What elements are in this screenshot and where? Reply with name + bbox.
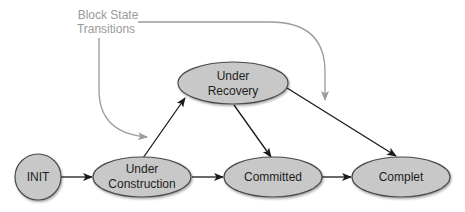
node-complet: Complet xyxy=(352,157,450,197)
node-committed: Committed xyxy=(224,157,322,197)
node-under-construction-label-2: Construction xyxy=(108,177,175,191)
node-under-recovery: Under Recovery xyxy=(178,62,288,104)
edge-under-recovery-to-complet xyxy=(287,88,396,156)
diagram-svg: INIT Under Construction Under Recovery C… xyxy=(0,0,465,212)
node-under-construction-label-1: Under xyxy=(126,162,159,176)
node-committed-label: Committed xyxy=(244,170,302,184)
node-under-recovery-label-2: Recovery xyxy=(208,84,259,98)
block-state-diagram: INIT Under Construction Under Recovery C… xyxy=(0,0,465,212)
node-under-recovery-label-1: Under xyxy=(217,69,250,83)
annotation-label-line2: Transitions xyxy=(77,22,135,36)
annotation-arrow-left xyxy=(99,38,147,137)
edge-under-construction-to-under-recovery xyxy=(143,98,185,158)
edge-under-recovery-to-committed xyxy=(234,105,271,157)
annotation-label-line1: Block State xyxy=(78,8,139,22)
node-init: INIT xyxy=(15,154,61,200)
node-init-label: INIT xyxy=(27,170,50,184)
node-under-construction: Under Construction xyxy=(93,157,191,197)
node-complet-label: Complet xyxy=(379,170,424,184)
